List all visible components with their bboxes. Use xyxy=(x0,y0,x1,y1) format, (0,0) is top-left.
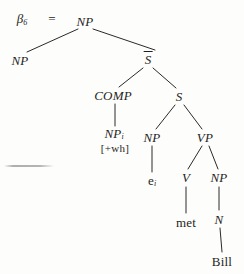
tree-node-n: N xyxy=(215,213,224,226)
feature-bundle-wh-feature: [+wh] xyxy=(101,142,129,154)
tree-node-label: NP xyxy=(210,170,227,185)
figure-label-subscript: 6 xyxy=(23,18,27,27)
tree-node-trace: ei xyxy=(148,174,156,189)
tree-node-vp: VP xyxy=(197,131,213,144)
tree-edge-vp-to-v xyxy=(188,146,202,169)
tree-node-subscript: i xyxy=(154,179,156,188)
tree-node-met: met xyxy=(176,216,196,229)
tree-edge-root-np-to-left-np xyxy=(27,29,78,52)
tree-node-label: S xyxy=(176,89,183,104)
tree-node-root-np: NP xyxy=(76,15,93,28)
tree-node-comp-np: NPi xyxy=(104,127,123,142)
tree-edge-sbar-to-comp xyxy=(119,68,143,87)
tree-node-label: NP xyxy=(11,53,28,68)
tree-node-v: V xyxy=(182,171,190,184)
tree-node-label: V xyxy=(182,170,190,185)
tree-edge-s-to-subj-np xyxy=(156,105,175,129)
tree-node-label: S xyxy=(145,52,152,66)
tree-edge-sbar-to-s xyxy=(153,68,176,88)
tree-node-bill: Bill xyxy=(212,255,232,268)
tree-node-subj-np: NP xyxy=(143,131,160,144)
tree-edge-vp-to-obj-np xyxy=(209,146,218,169)
tree-edge-n-to-bill xyxy=(220,228,222,252)
figure-canvas: β6 = NPNPSCOMPSNPiNPVPeiVNPmetNBill[+wh] xyxy=(0,0,244,274)
tree-node-label: COMP xyxy=(94,88,132,103)
tree-node-s: S xyxy=(176,90,183,103)
equals-sign: = xyxy=(48,11,55,27)
tree-node-sbar: S xyxy=(145,52,152,66)
tree-node-left-np: NP xyxy=(11,54,28,67)
figure-label: β6 xyxy=(17,11,27,27)
tree-edge-root-np-to-sbar xyxy=(93,29,155,50)
tree-node-label: Bill xyxy=(212,254,232,269)
tree-edge-s-to-vp xyxy=(184,105,202,129)
tree-node-label: NP xyxy=(76,14,93,29)
tree-node-label: N xyxy=(215,212,224,227)
tree-node-obj-np: NP xyxy=(210,171,227,184)
tree-node-subscript: i xyxy=(121,132,123,141)
tree-node-label: NP xyxy=(143,130,160,145)
tree-node-label: VP xyxy=(197,130,213,145)
tree-node-comp: COMP xyxy=(94,89,132,102)
tree-node-label: met xyxy=(176,215,196,230)
tree-node-label: NP xyxy=(104,126,121,141)
